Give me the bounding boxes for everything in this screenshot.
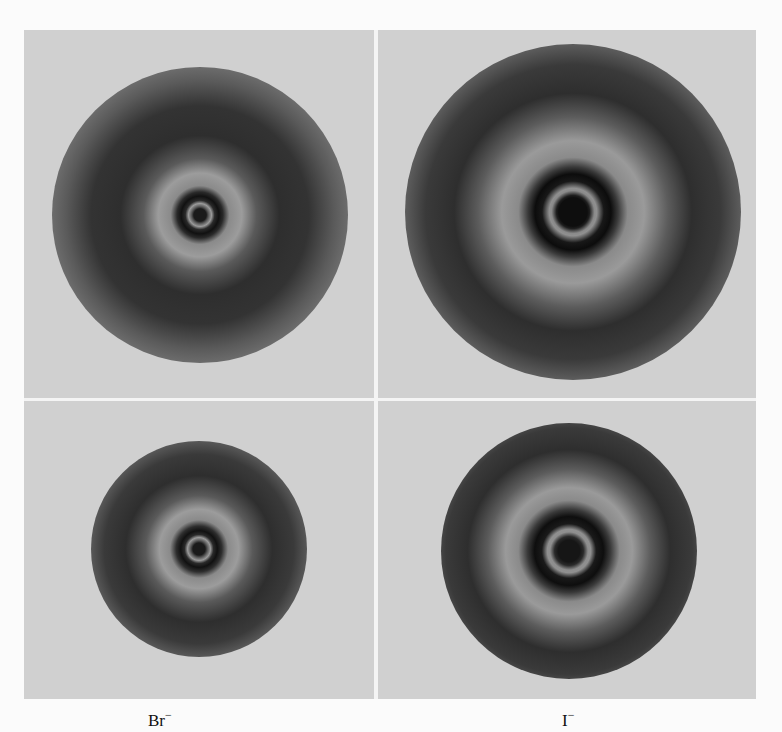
panel-br-bottom xyxy=(24,401,374,699)
caption-bromide-charge: − xyxy=(165,708,172,722)
diffraction-rings-i-top xyxy=(405,44,741,380)
panel-br-top xyxy=(24,30,374,398)
panel-i-top xyxy=(378,30,756,398)
diffraction-rings-i-bottom xyxy=(441,423,697,679)
horizontal-divider xyxy=(24,398,756,401)
caption-iodide: I− xyxy=(562,708,574,731)
caption-bromide-symbol: Br xyxy=(148,711,165,730)
diffraction-plate xyxy=(24,30,756,699)
diffraction-rings-br-bottom xyxy=(91,441,307,657)
caption-bromide: Br− xyxy=(148,708,172,731)
caption-iodide-charge: − xyxy=(568,708,575,722)
panel-i-bottom xyxy=(378,401,756,699)
diffraction-rings-br-top xyxy=(52,67,348,363)
vertical-divider xyxy=(374,30,378,699)
